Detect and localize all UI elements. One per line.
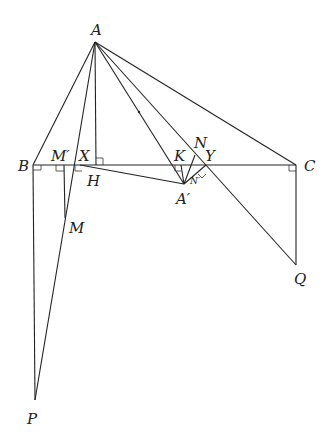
point-dot <box>138 111 140 113</box>
right-angle-foot <box>96 158 103 165</box>
label-P: P <box>26 410 38 428</box>
right-angle-M' <box>56 165 64 171</box>
label-M-prime: M′ <box>50 147 70 165</box>
right-angle-C <box>289 165 296 171</box>
label-A: A <box>89 21 102 39</box>
segment-AP <box>35 42 95 400</box>
geometry-diagram: A B C M′ X H M P K N Y A′ N′ Q <box>0 0 331 443</box>
point-labels: A B C M′ X H M P K N Y A′ N′ Q <box>17 21 316 428</box>
label-M: M <box>68 219 85 237</box>
label-K: K <box>173 147 186 165</box>
right-angle-X <box>75 165 82 171</box>
segment-M'M <box>64 165 65 218</box>
label-A-prime: A′ <box>174 190 191 208</box>
right-angle-B <box>33 165 41 170</box>
label-Y: Y <box>205 147 217 165</box>
label-X: X <box>78 147 91 165</box>
label-H: H <box>86 172 101 190</box>
segment-A-foot <box>95 42 96 165</box>
label-Q: Q <box>294 270 306 288</box>
label-C: C <box>304 157 316 175</box>
segment-BP <box>33 165 35 400</box>
label-B: B <box>17 157 29 175</box>
segment-AQ <box>95 42 296 265</box>
label-N-prime: N′ <box>189 176 200 186</box>
